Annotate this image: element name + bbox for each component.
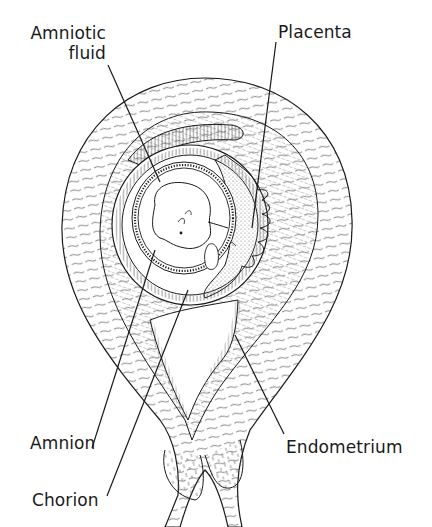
label-endometrium: Endometrium	[286, 437, 403, 457]
label-placenta: Placenta	[278, 22, 352, 42]
uterus-diagram: Amniotic fluid Placenta Amnion Chorion E…	[0, 0, 432, 527]
label-chorion: Chorion	[32, 490, 99, 510]
label-amniotic-fluid: Amniotic fluid	[22, 23, 106, 63]
label-amnion: Amnion	[30, 433, 95, 453]
